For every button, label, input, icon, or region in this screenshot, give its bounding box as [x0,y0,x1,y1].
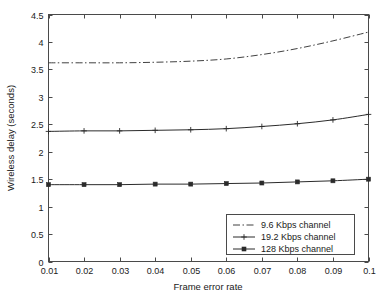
x-tick-label: 0.1 [363,266,376,276]
plot-area: 0.010.020.030.040.050.060.070.080.090.1 … [0,0,390,302]
x-axis-tick-labels: 0.010.020.030.040.050.060.070.080.090.1 [41,266,376,276]
x-tick-label: 0.06 [218,266,236,276]
chart-legend: 9.6 Kbps channel19.2 Kbps channel128 Kbp… [227,215,355,255]
series-2 [46,112,372,135]
y-tick-label: 2 [38,148,43,158]
y-axis-tick-labels: 00.511.522.533.544.5 [31,11,44,268]
data-point-marker [189,182,193,186]
data-point-marker [331,179,335,183]
x-tick-label: 0.07 [254,266,272,276]
data-point-marker [118,183,122,187]
legend-label: 128 Kbps channel [261,244,333,254]
series-line [49,32,369,63]
data-point-marker [47,183,51,187]
data-point-marker [260,181,264,185]
x-tick-label: 0.08 [289,266,307,276]
legend-label: 9.6 Kbps channel [261,220,331,230]
y-tick-label: 0 [38,258,43,268]
x-tick-label: 0.04 [147,266,165,276]
y-tick-label: 3 [38,93,43,103]
data-point-marker [82,183,86,187]
x-tick-label: 0.02 [76,266,94,276]
x-tick-label: 0.03 [112,266,130,276]
y-tick-label: 0.5 [31,230,44,240]
series-line [49,179,369,185]
legend-label: 19.2 Kbps channel [261,232,336,242]
x-tick-label: 0.05 [183,266,201,276]
x-axis-title: Frame error rate [173,281,242,292]
data-point-marker [224,182,228,186]
data-point-marker [367,177,371,181]
data-point-marker [242,247,246,251]
series-line [49,114,369,131]
data-series-group [46,32,372,187]
data-point-marker [295,180,299,184]
y-tick-label: 2.5 [31,120,44,130]
x-tick-label: 0.09 [325,266,343,276]
series-3 [47,177,371,186]
y-tick-label: 1 [38,203,43,213]
y-axis-title: Wireless delay (seconds) [5,85,16,191]
data-point-marker [153,182,157,186]
y-tick-label: 4 [38,38,43,48]
series-1 [49,32,369,63]
y-tick-label: 4.5 [31,11,44,21]
y-tick-label: 3.5 [31,65,44,75]
y-tick-label: 1.5 [31,175,44,185]
chart-figure: 0.010.020.030.040.050.060.070.080.090.1 … [0,0,390,302]
legend-items: 9.6 Kbps channel19.2 Kbps channel128 Kbp… [233,220,336,254]
